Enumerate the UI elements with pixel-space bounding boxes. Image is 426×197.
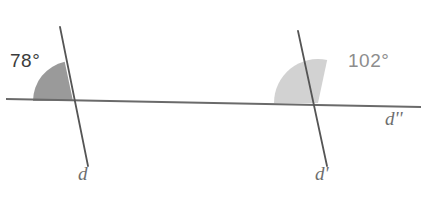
- geometry-figure: 78° 102° d d' d'': [0, 0, 426, 197]
- angle-sector-right: [274, 59, 327, 103]
- angle-label-right: 102°: [348, 50, 389, 72]
- angle-label-left: 78°: [10, 50, 40, 72]
- horizontal-line-d2: [6, 99, 421, 107]
- line-label-d-prime: d': [315, 163, 329, 185]
- line-label-d-double-prime: d'': [385, 108, 403, 130]
- line-label-d: d: [78, 163, 88, 185]
- figure-canvas: [0, 0, 426, 197]
